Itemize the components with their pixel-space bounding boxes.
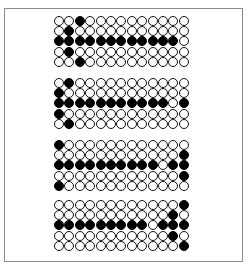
- empty-dot: [85, 16, 95, 26]
- empty-dot: [158, 210, 168, 220]
- empty-dot: [106, 16, 116, 26]
- filled-dot: [85, 36, 95, 46]
- empty-dot: [158, 171, 168, 181]
- empty-dot: [137, 150, 147, 160]
- empty-dot: [85, 150, 95, 160]
- filled-dot: [137, 98, 147, 108]
- filled-dot: [106, 220, 116, 230]
- empty-dot: [148, 119, 158, 129]
- empty-dot: [85, 200, 95, 210]
- filled-dot: [96, 160, 106, 170]
- empty-dot: [85, 26, 95, 36]
- empty-dot: [64, 200, 74, 210]
- empty-dot: [137, 140, 147, 150]
- filled-dot: [54, 109, 64, 119]
- empty-dot: [168, 241, 178, 251]
- empty-dot: [106, 231, 116, 241]
- empty-dot: [137, 119, 147, 129]
- empty-dot: [64, 140, 74, 150]
- empty-dot: [64, 150, 74, 160]
- empty-dot: [148, 181, 158, 191]
- empty-dot: [116, 26, 126, 36]
- empty-dot: [137, 57, 147, 67]
- filled-dot: [137, 220, 147, 230]
- filled-dot: [75, 220, 85, 230]
- empty-dot: [116, 181, 126, 191]
- empty-dot: [127, 210, 137, 220]
- dot-grid-2: [54, 78, 189, 129]
- filled-dot: [54, 36, 64, 46]
- empty-dot: [179, 140, 189, 150]
- empty-dot: [127, 140, 137, 150]
- empty-dot: [116, 78, 126, 88]
- empty-dot: [106, 119, 116, 129]
- empty-dot: [116, 200, 126, 210]
- empty-dot: [75, 241, 85, 251]
- empty-dot: [96, 200, 106, 210]
- filled-dot: [85, 98, 95, 108]
- empty-dot: [127, 119, 137, 129]
- empty-dot: [158, 150, 168, 160]
- filled-dot: [179, 241, 189, 251]
- empty-dot: [116, 140, 126, 150]
- empty-dot: [158, 231, 168, 241]
- filled-dot: [148, 36, 158, 46]
- empty-dot: [168, 57, 178, 67]
- empty-dot: [137, 109, 147, 119]
- empty-dot: [85, 47, 95, 57]
- empty-dot: [179, 36, 189, 46]
- empty-dot: [179, 181, 189, 191]
- empty-dot: [96, 26, 106, 36]
- empty-dot: [54, 47, 64, 57]
- empty-dot: [116, 171, 126, 181]
- empty-dot: [148, 231, 158, 241]
- empty-dot: [116, 231, 126, 241]
- empty-dot: [85, 78, 95, 88]
- empty-dot: [106, 181, 116, 191]
- empty-dot: [85, 241, 95, 251]
- filled-dot: [127, 36, 137, 46]
- empty-dot: [54, 241, 64, 251]
- empty-dot: [168, 109, 178, 119]
- filled-dot: [75, 160, 85, 170]
- filled-dot: [106, 98, 116, 108]
- empty-dot: [116, 150, 126, 160]
- empty-dot: [168, 119, 178, 129]
- filled-dot: [64, 26, 74, 36]
- empty-dot: [158, 57, 168, 67]
- filled-dot: [137, 160, 147, 170]
- empty-dot: [179, 231, 189, 241]
- empty-dot: [85, 140, 95, 150]
- empty-dot: [85, 181, 95, 191]
- filled-dot: [168, 220, 178, 230]
- empty-dot: [54, 16, 64, 26]
- empty-dot: [137, 47, 147, 57]
- empty-dot: [85, 88, 95, 98]
- filled-dot: [75, 98, 85, 108]
- filled-dot: [127, 98, 137, 108]
- empty-dot: [64, 241, 74, 251]
- empty-dot: [75, 47, 85, 57]
- empty-dot: [75, 171, 85, 181]
- empty-dot: [64, 57, 74, 67]
- empty-dot: [54, 171, 64, 181]
- filled-dot: [64, 119, 74, 129]
- empty-dot: [64, 171, 74, 181]
- empty-dot: [179, 78, 189, 88]
- filled-dot: [85, 220, 95, 230]
- empty-dot: [85, 171, 95, 181]
- empty-dot: [116, 241, 126, 251]
- empty-dot: [137, 241, 147, 251]
- empty-dot: [158, 160, 168, 170]
- empty-dot: [148, 140, 158, 150]
- filled-dot: [75, 16, 85, 26]
- empty-dot: [116, 119, 126, 129]
- empty-dot: [75, 119, 85, 129]
- empty-dot: [54, 210, 64, 220]
- empty-dot: [168, 171, 178, 181]
- empty-dot: [75, 78, 85, 88]
- filled-dot: [158, 36, 168, 46]
- filled-dot: [137, 36, 147, 46]
- empty-dot: [158, 88, 168, 98]
- empty-dot: [127, 171, 137, 181]
